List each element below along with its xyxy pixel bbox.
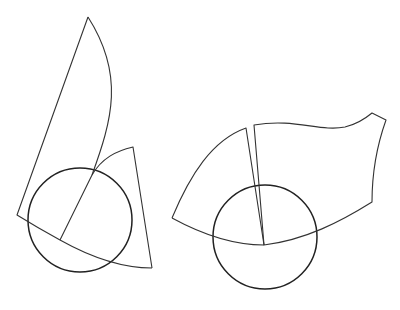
right-figure xyxy=(172,113,386,289)
right-bottom-arc xyxy=(172,218,264,245)
left-tall-sector-arc xyxy=(60,17,112,240)
left-circle xyxy=(28,168,132,272)
left-figure xyxy=(17,17,152,272)
diagram-canvas xyxy=(0,0,400,310)
left-tall-sector xyxy=(17,17,152,268)
right-flag-sector xyxy=(254,113,386,245)
